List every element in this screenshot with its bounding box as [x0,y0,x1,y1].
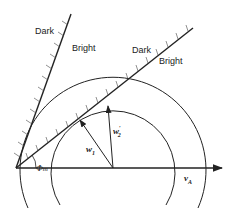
label-w2-prime: w′2 [113,125,121,138]
label-bright-upper: Bright [72,43,96,53]
w2-prime-vector [108,106,113,168]
label-va: vA [184,173,192,185]
shallow-boundary-line [16,25,193,168]
velocity-diagram: Dark Bright Dark Bright w1 w′2 Φm vA [0,0,233,211]
label-w1: w1 [86,144,95,156]
label-phi-m: Φm [36,163,48,173]
steep-boundary-line [14,14,71,168]
label-dark-upper: Dark [35,26,55,36]
label-dark-lower: Dark [132,45,152,55]
label-bright-lower: Bright [159,56,183,66]
w1-vector [80,120,113,168]
